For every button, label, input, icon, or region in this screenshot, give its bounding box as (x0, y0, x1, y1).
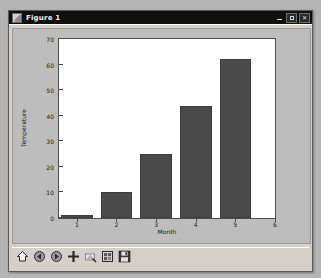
minimize-button[interactable] (275, 14, 284, 22)
y-tick-label: 0 (50, 215, 54, 222)
back-button[interactable] (31, 249, 47, 265)
bar (101, 192, 133, 218)
x-axis-label: Month (158, 228, 177, 235)
y-tick-mark (59, 115, 63, 116)
x-tick-label: 6 (273, 221, 277, 228)
forward-arrow-icon (50, 250, 63, 263)
title-bar[interactable]: Figure 1 ✕ (9, 11, 312, 24)
figure-window: Figure 1 ✕ Temperature Month 01020304050… (8, 10, 313, 272)
y-axis-label: Temperature (20, 109, 27, 147)
y-tick-mark (59, 166, 63, 167)
move-cross-icon (67, 250, 80, 263)
y-tick-mark (59, 191, 63, 192)
y-tick-mark (59, 217, 63, 218)
y-tick-mark (59, 38, 63, 39)
y-tick-mark (59, 89, 63, 90)
x-tick-label: 3 (154, 221, 158, 228)
y-tick-label: 10 (46, 189, 54, 196)
bar (180, 106, 212, 219)
plot-axes: 010203040506070 123456 (58, 38, 276, 219)
figure-icon (12, 13, 22, 23)
y-tick-mark (59, 140, 63, 141)
y-tick-label: 60 (46, 62, 54, 69)
floppy-disk-icon (118, 250, 131, 263)
figure-canvas[interactable]: Temperature Month 010203040506070 123456 (12, 28, 311, 244)
maximize-button[interactable] (286, 13, 297, 23)
zoom-rect-icon (84, 250, 97, 263)
close-button[interactable]: ✕ (299, 13, 310, 23)
home-icon (16, 250, 29, 263)
x-tick-label: 1 (75, 221, 79, 228)
back-arrow-icon (33, 250, 46, 263)
y-tick-label: 20 (46, 164, 54, 171)
x-tick-label: 5 (233, 221, 237, 228)
y-tick-label: 40 (46, 113, 54, 120)
y-tick-label: 70 (46, 36, 54, 43)
navigation-toolbar (12, 247, 309, 265)
subplots-icon (101, 250, 114, 263)
y-tick-mark (59, 64, 63, 65)
save-button[interactable] (116, 249, 132, 265)
configure-subplots-button[interactable] (99, 249, 115, 265)
zoom-button[interactable] (82, 249, 98, 265)
bar-series (59, 39, 275, 218)
window-title: Figure 1 (26, 14, 273, 22)
x-tick-label: 2 (115, 221, 119, 228)
y-tick-label: 30 (46, 138, 54, 145)
bar (140, 154, 172, 218)
pan-button[interactable] (65, 249, 81, 265)
bar (220, 59, 252, 218)
y-tick-label: 50 (46, 87, 54, 94)
x-tick-label: 4 (194, 221, 198, 228)
window-client-area: Temperature Month 010203040506070 123456 (9, 24, 312, 271)
forward-button[interactable] (48, 249, 64, 265)
home-button[interactable] (14, 249, 30, 265)
